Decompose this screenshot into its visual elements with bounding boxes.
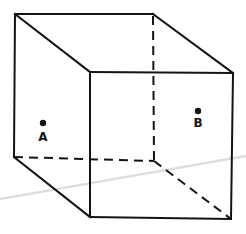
edge-back-right-vertical-hidden — [153, 16, 154, 161]
figure-canvas: AB — [0, 0, 246, 234]
scan-crease-line — [0, 156, 246, 199]
edge-top-right-oblique — [153, 14, 233, 73]
edge-bottom-back-hidden — [14, 157, 154, 161]
edge-back-left-vertical — [14, 14, 15, 157]
edge-front-bottom — [90, 217, 231, 219]
edge-bottom-left-oblique — [14, 157, 90, 217]
point-b-dot — [195, 108, 201, 114]
edge-front-top — [90, 72, 233, 73]
point-a-label: A — [38, 130, 48, 144]
cube-wireframe-figure: AB — [0, 0, 246, 234]
edge-top-left-oblique — [15, 14, 90, 72]
point-b-label: B — [193, 116, 202, 130]
point-a-dot — [40, 120, 46, 126]
edge-front-right-vertical — [231, 73, 233, 219]
